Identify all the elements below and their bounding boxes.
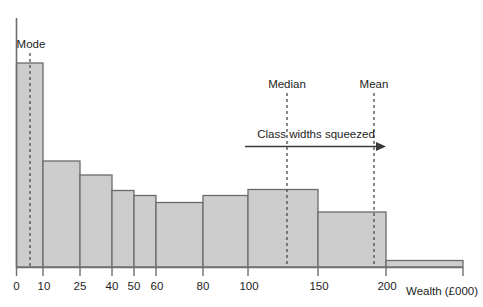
x-tick-label-25: 25	[74, 280, 87, 292]
bar-40-50	[112, 191, 134, 268]
x-axis-title: Wealth (£000)	[406, 285, 478, 297]
class-widths-squeezed-label: Class widths squeezed	[257, 128, 375, 140]
mode-marker-label: Mode	[17, 38, 46, 50]
x-tick-label-0: 0	[13, 280, 19, 292]
bar-200-plus	[386, 261, 463, 268]
bar-60-80	[156, 203, 203, 268]
mean-marker-label: Mean	[360, 78, 389, 90]
bar-80-100	[203, 196, 248, 268]
x-tick-label-80: 80	[197, 280, 210, 292]
x-tick-label-150: 150	[309, 280, 328, 292]
x-tick-label-200: 200	[377, 280, 396, 292]
median-marker-label: Median	[268, 78, 306, 90]
class-widths-squeezed-arrow-head	[376, 142, 386, 151]
x-tick-marks	[17, 268, 464, 277]
x-tick-label-100: 100	[239, 280, 258, 292]
x-tick-label-10: 10	[38, 280, 51, 292]
class-widths-squeezed-annotation: Class widths squeezed	[245, 128, 386, 151]
bars-group	[17, 63, 464, 267]
bar-25-40	[80, 175, 112, 267]
histogram-chart: 0 10 25 40 50 60 80 100 150 200 Wealth (…	[0, 0, 483, 307]
x-tick-label-50: 50	[128, 280, 141, 292]
bar-150-200	[318, 212, 386, 267]
bar-50-60	[134, 196, 156, 268]
bar-0-10	[17, 63, 44, 267]
bar-100-150	[248, 190, 318, 268]
bar-10-25	[43, 161, 80, 267]
x-tick-labels: 0 10 25 40 50 60 80 100 150 200	[13, 280, 396, 292]
x-tick-label-60: 60	[151, 280, 164, 292]
x-tick-label-40: 40	[106, 280, 119, 292]
histogram-plot: 0 10 25 40 50 60 80 100 150 200 Wealth (…	[0, 0, 483, 307]
